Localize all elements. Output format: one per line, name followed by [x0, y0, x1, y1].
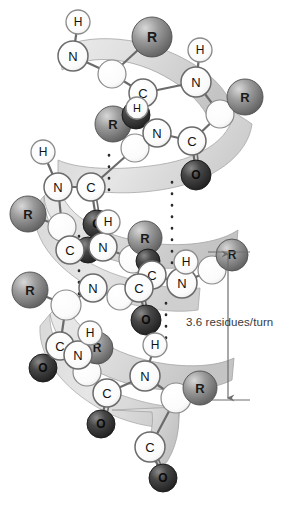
- svg-text:H: H: [151, 338, 160, 352]
- svg-text:O: O: [191, 168, 200, 182]
- atom-h: H: [174, 250, 198, 274]
- svg-text:H: H: [39, 145, 48, 159]
- alpha-helix-figure: R R R R R R R R: [0, 0, 283, 505]
- atom-h: H: [78, 321, 102, 345]
- svg-text:C: C: [102, 386, 111, 401]
- svg-text:R: R: [228, 248, 237, 262]
- atom-o: O: [181, 160, 211, 190]
- atom-r: R: [10, 196, 46, 232]
- svg-text:N: N: [88, 281, 97, 296]
- atom-n: N: [130, 361, 160, 391]
- svg-text:N: N: [140, 369, 149, 384]
- atom-n: N: [44, 173, 72, 201]
- atom-c: C: [93, 379, 121, 407]
- atom-h: H: [31, 140, 55, 164]
- svg-text:H: H: [74, 15, 83, 29]
- atom-n: N: [79, 274, 107, 302]
- svg-text:N: N: [177, 276, 186, 291]
- svg-text:R: R: [140, 231, 150, 246]
- svg-text:R: R: [23, 207, 33, 222]
- atom-r: R: [132, 17, 172, 57]
- atom-c: C: [77, 173, 105, 201]
- atom-h: H: [143, 333, 167, 357]
- residues-per-turn-label: 3.6 residues/turn: [186, 316, 273, 328]
- svg-text:R: R: [108, 117, 118, 132]
- atom-n: N: [89, 233, 117, 261]
- svg-text:C: C: [55, 339, 64, 354]
- atom-c: C: [178, 127, 206, 155]
- atom-c: C: [56, 236, 84, 264]
- svg-text:R: R: [240, 90, 250, 105]
- svg-text:H: H: [104, 215, 113, 229]
- svg-text:H: H: [133, 102, 141, 114]
- atom-h: H: [66, 10, 90, 34]
- svg-text:N: N: [68, 49, 77, 64]
- atom-ca: [98, 60, 126, 88]
- svg-text:O: O: [158, 471, 167, 485]
- atom-n: N: [143, 119, 171, 147]
- svg-text:H: H: [196, 43, 205, 57]
- svg-text:N: N: [98, 240, 107, 255]
- svg-text:H: H: [182, 255, 191, 269]
- atom-r: R: [12, 272, 48, 308]
- svg-text:O: O: [141, 313, 150, 327]
- atom-h: H: [96, 210, 120, 234]
- atom-o: O: [131, 305, 161, 335]
- atom-h: H: [126, 97, 148, 119]
- atom-c: C: [125, 274, 153, 302]
- atom-n: N: [58, 41, 88, 71]
- atom-o: O: [149, 464, 177, 492]
- svg-text:O: O: [38, 361, 47, 375]
- atom-c: C: [135, 432, 165, 462]
- svg-text:H: H: [86, 326, 95, 340]
- atom-n: N: [181, 67, 211, 97]
- svg-text:C: C: [187, 134, 196, 149]
- svg-text:C: C: [86, 180, 95, 195]
- atom-o: O: [87, 410, 115, 438]
- atom-ca: [51, 290, 81, 320]
- atom-r: R: [227, 79, 263, 115]
- svg-text:C: C: [134, 281, 143, 296]
- svg-text:N: N: [191, 75, 200, 90]
- svg-text:N: N: [73, 348, 82, 363]
- svg-text:N: N: [152, 126, 161, 141]
- svg-text:O: O: [96, 417, 105, 431]
- svg-text:R: R: [195, 381, 205, 396]
- atom-h: H: [188, 38, 212, 62]
- svg-text:C: C: [65, 243, 74, 258]
- svg-text:R: R: [147, 29, 157, 45]
- atom-r: R: [216, 239, 248, 271]
- svg-text:R: R: [25, 283, 35, 298]
- svg-text:N: N: [53, 180, 62, 195]
- svg-text:C: C: [145, 440, 154, 455]
